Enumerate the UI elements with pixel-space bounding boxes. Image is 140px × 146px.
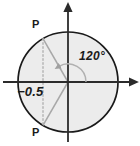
unit-circle-diagram <box>0 0 140 146</box>
unit-circle-figure: P P 120° −0.5 <box>0 0 140 146</box>
x-value-label: −0.5 <box>17 85 43 98</box>
point-label-p-upper: P <box>32 19 39 30</box>
point-label-p-lower: P <box>32 127 39 138</box>
angle-label: 120° <box>79 50 105 62</box>
